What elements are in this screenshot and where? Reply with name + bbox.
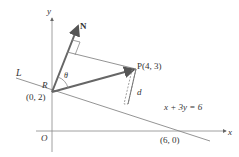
- origin-label: O: [41, 133, 48, 143]
- point-R-coords: (0, 2): [26, 92, 46, 102]
- distance-label: d: [137, 87, 142, 97]
- line-equation: x + 3y = 6: [163, 102, 203, 112]
- line-L-label: L: [15, 67, 22, 78]
- point-R-label: R: [41, 80, 48, 90]
- normal-vector-label: N: [80, 21, 87, 31]
- x-intercept-label: (6, 0): [160, 135, 180, 145]
- x-axis-label: x: [227, 127, 232, 137]
- diagram-canvas: y x O L R (0, 2) N θ P(4, 3) d x + 3y = …: [0, 0, 239, 157]
- y-axis-label: y: [46, 6, 51, 16]
- right-angle-marker: [72, 40, 80, 55]
- point-P-label: P(4, 3): [137, 61, 162, 71]
- distance-bracket: [124, 69, 136, 104]
- projection-line: [67, 40, 136, 69]
- theta-label: θ: [64, 71, 68, 80]
